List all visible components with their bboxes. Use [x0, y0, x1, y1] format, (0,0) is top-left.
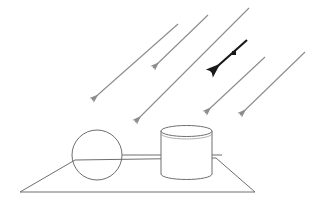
ray-5 [240, 52, 305, 115]
highlighted-ray-origin-marker [232, 51, 236, 55]
ray-1 [92, 24, 178, 100]
cylinder [161, 126, 212, 180]
cylinder-body [161, 131, 212, 179]
cylinder-top-ellipse [161, 126, 212, 137]
scene-svg: Incident light rays on a scene with a sp… [0, 0, 322, 204]
incident-ray-group [92, 8, 305, 122]
ray-3 [135, 8, 249, 122]
ray-2 [153, 15, 208, 68]
highlighted-ray [211, 40, 247, 72]
illustration-canvas: Incident light rays on a scene with a sp… [0, 0, 322, 204]
ray-4 [205, 57, 265, 113]
sphere [72, 130, 122, 180]
ground-plane [20, 158, 255, 192]
highlighted-ray-group [211, 40, 247, 72]
ground-plane-group [20, 158, 255, 192]
